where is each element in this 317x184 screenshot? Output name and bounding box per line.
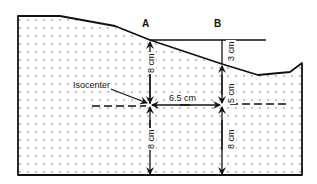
ab-separation-label: 6.5 cm [168, 93, 197, 103]
b-gap-top-label: 3 cm [226, 40, 236, 62]
b-depth-below-label: 8 cm [226, 128, 236, 150]
isocenter-label: Isocenter [72, 80, 111, 90]
point-a-label: A [142, 18, 149, 29]
diagram-canvas: A B Isocenter 6.5 cm 8 cm 8 cm 3 cm 5 cm… [0, 0, 317, 184]
b-depth-above-label: 5 cm [226, 82, 236, 104]
point-b-label: B [214, 18, 221, 29]
a-depth-above-label: 8 cm [146, 52, 156, 74]
a-depth-below-label: 8 cm [146, 128, 156, 150]
